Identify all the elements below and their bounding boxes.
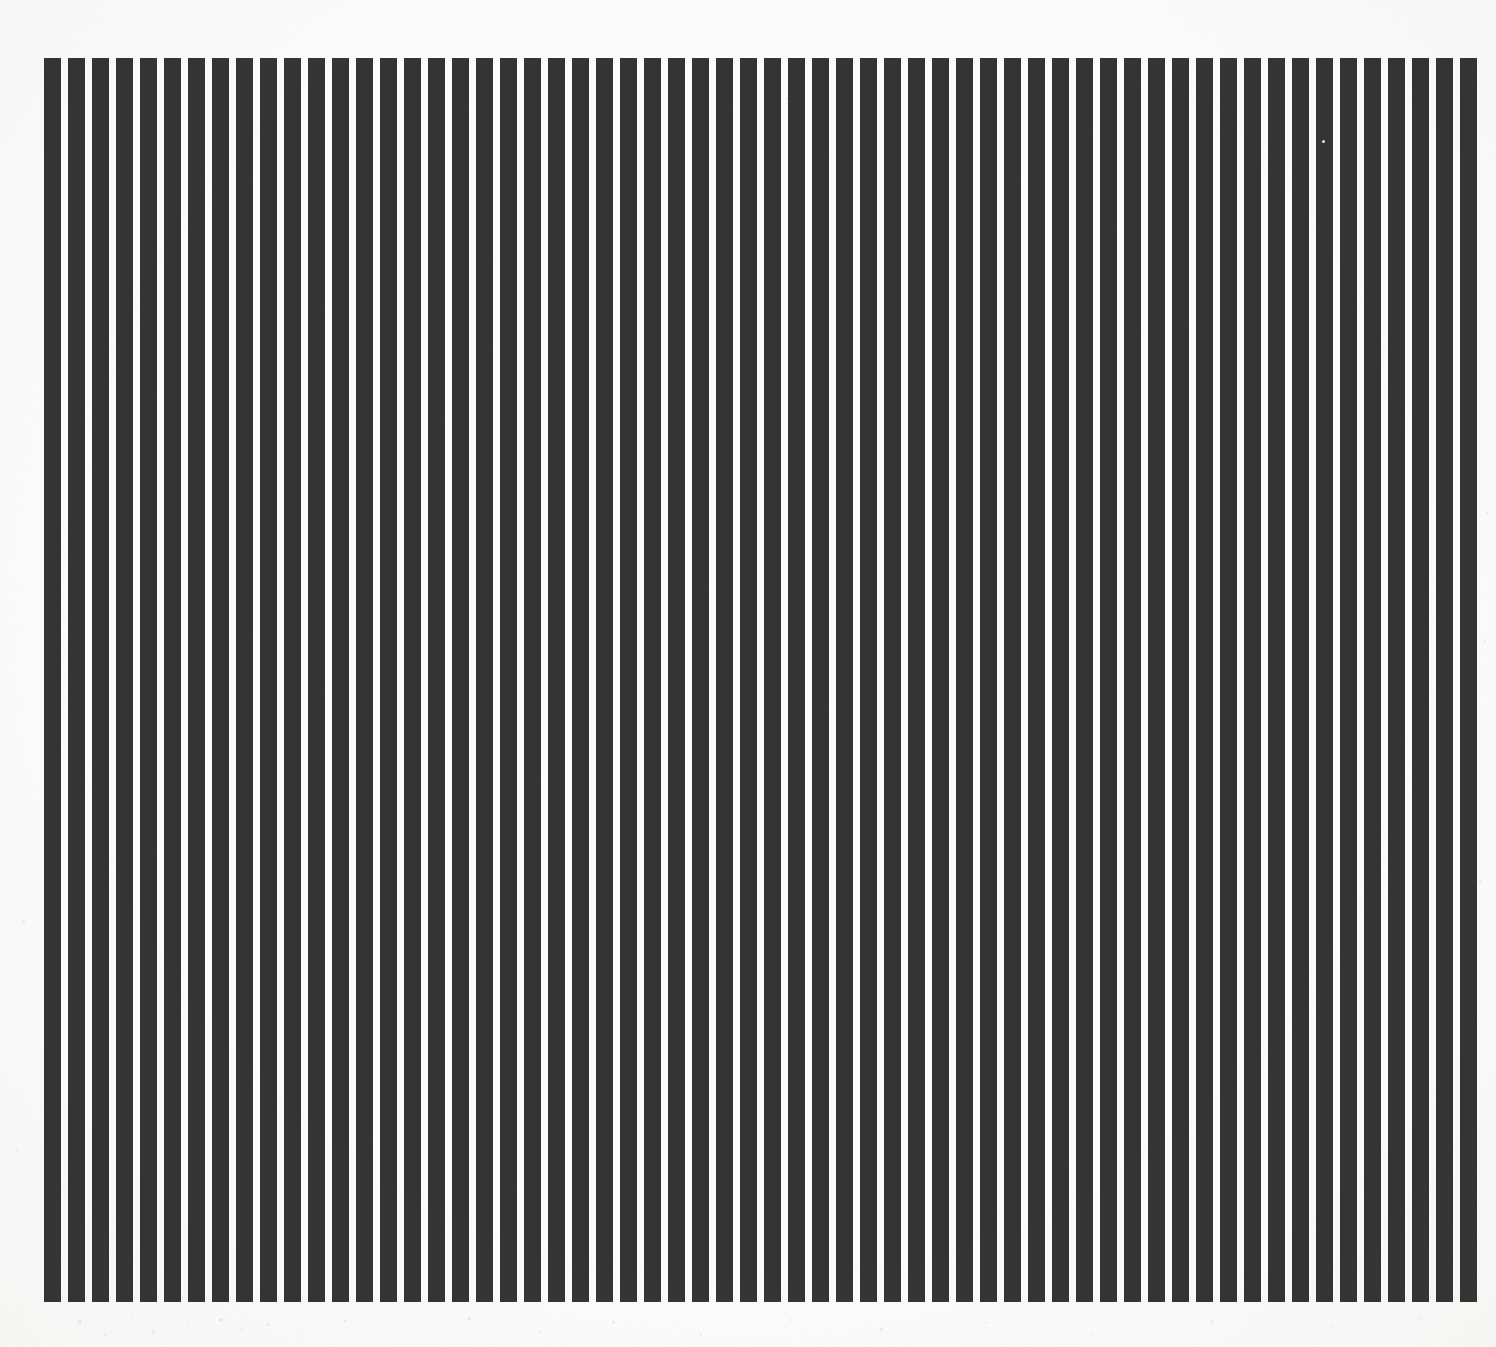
stripe-bar	[764, 58, 781, 1302]
stripe-bar	[692, 58, 709, 1302]
paper-speck	[985, 1322, 987, 1324]
stripe-bar	[836, 58, 853, 1302]
paper-speck	[266, 1323, 269, 1326]
stripe-bar	[44, 58, 61, 1302]
stripe-bar	[788, 58, 805, 1302]
stripe-bar	[1196, 58, 1213, 1302]
paper-speck	[78, 1320, 82, 1324]
stripe-bar	[332, 58, 349, 1302]
stripe-bar	[428, 58, 445, 1302]
stripe-bar	[1076, 58, 1093, 1302]
paper-speck	[22, 920, 25, 923]
stripe-bar	[932, 58, 949, 1302]
stripe-bar	[68, 58, 85, 1302]
stripe-bar	[1460, 58, 1477, 1302]
stripe-bar	[356, 58, 373, 1302]
stripe-bar	[1100, 58, 1117, 1302]
stripe-bar	[884, 58, 901, 1302]
stripe-bar	[1412, 58, 1429, 1302]
stripe-bar	[572, 58, 589, 1302]
stripe-bar	[92, 58, 109, 1302]
stripe-bar	[284, 58, 301, 1302]
paper-speck	[241, 1329, 243, 1331]
paper-speck	[468, 1317, 471, 1320]
stripe-bar	[404, 58, 421, 1302]
stripe-bar	[644, 58, 661, 1302]
stripe-bar	[620, 58, 637, 1302]
stripe-bar	[140, 58, 157, 1302]
paper-speck	[1479, 880, 1482, 883]
paper-speck	[1486, 512, 1488, 514]
stripe-bar	[1172, 58, 1189, 1302]
paper-speck	[700, 1334, 702, 1336]
paper-speck	[131, 1316, 133, 1318]
stripe-bar	[668, 58, 685, 1302]
stripe-bar	[500, 58, 517, 1302]
paper-speck	[404, 1327, 406, 1329]
paper-speck	[219, 1318, 223, 1322]
stripe-bar	[1436, 58, 1453, 1302]
stripe-bar	[1028, 58, 1045, 1302]
stripe-bar	[548, 58, 565, 1302]
stripe-bar	[1004, 58, 1021, 1302]
stripe-bar	[1388, 58, 1405, 1302]
paper-speck	[880, 1328, 883, 1331]
stripe-bar	[980, 58, 997, 1302]
stripe-bar	[308, 58, 325, 1302]
stripe-bar	[1052, 58, 1069, 1302]
stripe-bar	[1292, 58, 1309, 1302]
stripe-bar	[1124, 58, 1141, 1302]
stripe-bar	[740, 58, 757, 1302]
paper-speck	[152, 1330, 155, 1333]
stripe-bar	[1340, 58, 1357, 1302]
stripe-bar	[1220, 58, 1237, 1302]
stripe-bar	[860, 58, 877, 1302]
paper-speck	[1484, 640, 1486, 642]
paper-speck	[540, 1331, 542, 1333]
stripe-bar	[1268, 58, 1285, 1302]
stripe-bar	[956, 58, 973, 1302]
stripe-bar	[452, 58, 469, 1302]
paper-speck	[343, 1319, 346, 1322]
stripe-bar	[812, 58, 829, 1302]
paper-speck	[301, 1335, 303, 1337]
stripe-bar	[212, 58, 229, 1302]
paper-speck	[612, 1321, 615, 1324]
paper-speck	[1210, 1320, 1213, 1323]
stripe-bar	[236, 58, 253, 1302]
stripe-bar	[260, 58, 277, 1302]
stripe-bar	[908, 58, 925, 1302]
stripe-field	[44, 58, 1474, 1302]
artwork-canvas	[0, 0, 1496, 1347]
stripe-bar	[524, 58, 541, 1302]
paper-speck	[1330, 1326, 1332, 1328]
stripe-bar	[1316, 58, 1333, 1302]
paper-speck	[104, 1333, 107, 1336]
paper-speck	[1090, 1333, 1092, 1335]
stripe-bar	[164, 58, 181, 1302]
paper-speck	[16, 1150, 18, 1152]
stripe-bar	[596, 58, 613, 1302]
stripe-bar	[1244, 58, 1261, 1302]
stripe-bar	[116, 58, 133, 1302]
stripe-bar	[1148, 58, 1165, 1302]
stripe-bar	[188, 58, 205, 1302]
paper-speck	[1420, 1318, 1422, 1320]
paper-speck	[186, 1322, 188, 1324]
paper-speck	[790, 1319, 792, 1321]
stripe-bar	[1364, 58, 1381, 1302]
stripe-bar	[716, 58, 733, 1302]
stripe-bar	[380, 58, 397, 1302]
stripe-bar	[476, 58, 493, 1302]
